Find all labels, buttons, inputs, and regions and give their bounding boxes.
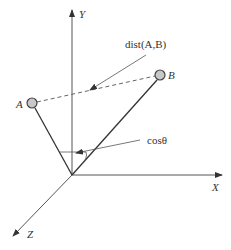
point-b-label: B xyxy=(168,69,175,81)
vector-space-diagram: Y X Z A B dist(A,B) cosθ xyxy=(0,0,231,250)
cosine-leader xyxy=(76,140,140,153)
y-axis-label: Y xyxy=(79,8,87,20)
cosine-label: cosθ xyxy=(147,134,167,146)
point-a xyxy=(27,98,37,108)
z-axis xyxy=(13,175,72,236)
point-b xyxy=(155,70,165,80)
x-axis-label: X xyxy=(211,181,220,193)
distance-label: dist(A,B) xyxy=(125,38,167,51)
vector-a xyxy=(35,108,72,175)
point-a-label: A xyxy=(15,98,23,110)
z-axis-label: Z xyxy=(27,228,34,240)
distance-leader xyxy=(90,55,146,90)
distance-line xyxy=(37,76,155,102)
